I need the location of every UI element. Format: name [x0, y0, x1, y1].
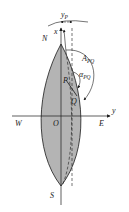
label-east: E — [98, 119, 104, 128]
label-x-axis: x — [53, 27, 58, 36]
label-north: N — [41, 34, 48, 43]
label-azimuth-sub: PQ — [86, 58, 94, 64]
label-alpha: αPQ — [79, 70, 91, 80]
gore-diagram: N x yP APQ αPQ P Q W O E y S — [0, 0, 129, 212]
top-parallel-arc — [48, 21, 88, 26]
label-yp: yP — [60, 10, 69, 20]
label-point-p: P — [62, 76, 68, 85]
true-north-arrow — [64, 30, 66, 52]
label-west: W — [15, 119, 23, 128]
label-origin: O — [53, 119, 59, 128]
label-azimuth: APQ — [81, 54, 94, 64]
label-south: S — [50, 191, 54, 200]
label-alpha-sub: PQ — [82, 74, 90, 80]
label-point-q: Q — [71, 97, 77, 106]
label-yp-sub: P — [64, 14, 69, 20]
label-y-axis: y — [111, 106, 116, 115]
